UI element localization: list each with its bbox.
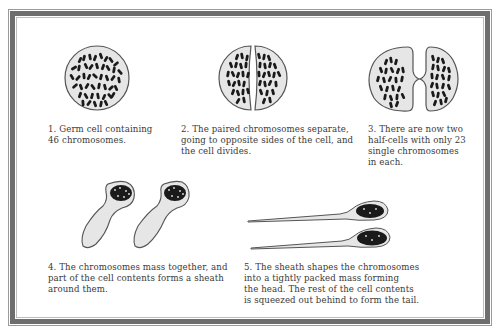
germ-cell-diagram <box>65 46 129 110</box>
step-4-caption: 4. The chromosomes mass together, and pa… <box>48 262 228 295</box>
sperm-formation-diagram <box>248 201 390 249</box>
dividing-cell-diagram <box>219 46 287 110</box>
step-5-caption: 5. The sheath shapes the chromosomes int… <box>244 262 419 306</box>
step-2-caption: 2. The paired chromosomes separate, goin… <box>181 124 353 157</box>
half-cells-diagram <box>369 47 458 111</box>
step-3-caption: 3. There are now two half-cells with onl… <box>368 124 466 168</box>
step-1-caption: 1. Germ cell containing 46 chromosomes. <box>48 124 152 146</box>
sheath-forming-diagram <box>82 181 189 247</box>
